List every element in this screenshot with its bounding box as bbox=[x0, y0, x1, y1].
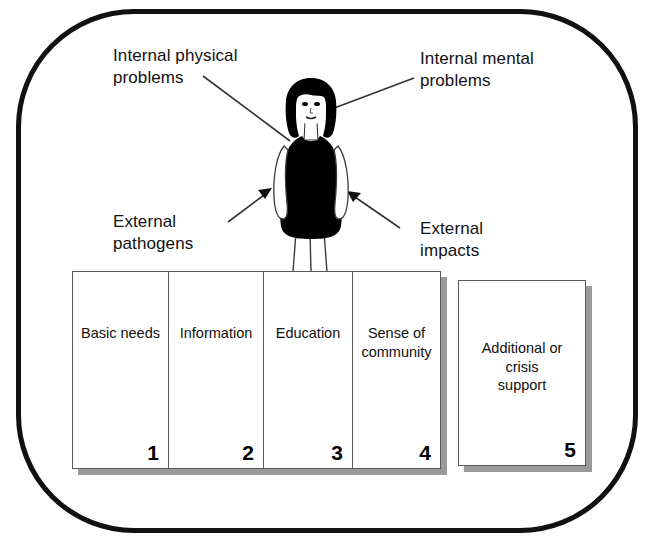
support-card-3-number: 3 bbox=[331, 441, 343, 465]
support-card-group-secondary: Additional or crisis support 5 bbox=[458, 280, 586, 466]
right-arm-icon bbox=[334, 146, 348, 219]
left-eye-icon bbox=[302, 102, 308, 106]
diagram-canvas: Internal physical problems Internal ment… bbox=[0, 0, 654, 549]
label-internal-physical-problems: Internal physical problems bbox=[113, 45, 238, 90]
support-card-5-number: 5 bbox=[564, 438, 576, 462]
connector-internal-mental bbox=[329, 78, 414, 110]
right-eye-icon bbox=[314, 102, 320, 106]
connector-external-impacts bbox=[347, 191, 400, 228]
dress-shape bbox=[280, 136, 342, 239]
left-arm-icon bbox=[274, 146, 288, 219]
support-card-5-label: Additional or crisis support bbox=[459, 339, 585, 395]
connector-external-pathogens bbox=[228, 188, 272, 222]
support-card-1-number: 1 bbox=[147, 441, 159, 465]
support-card-1-label: Basic needs bbox=[73, 324, 168, 343]
label-internal-mental-problems: Internal mental problems bbox=[420, 48, 534, 93]
support-card-4[interactable]: Sense of community 4 bbox=[352, 271, 441, 469]
label-external-pathogens: External pathogens bbox=[113, 211, 193, 256]
support-card-4-number: 4 bbox=[419, 441, 431, 465]
label-external-impacts: External impacts bbox=[420, 218, 483, 263]
support-card-2-number: 2 bbox=[242, 441, 254, 465]
support-card-5[interactable]: Additional or crisis support 5 bbox=[458, 280, 586, 466]
support-card-4-label: Sense of community bbox=[353, 324, 440, 361]
support-card-1[interactable]: Basic needs 1 bbox=[72, 271, 169, 469]
support-card-3[interactable]: Education 3 bbox=[263, 271, 353, 469]
support-card-2-label: Information bbox=[169, 324, 263, 343]
support-card-2[interactable]: Information 2 bbox=[168, 271, 264, 469]
support-card-group-primary: Basic needs 1 Information 2 Education 3 … bbox=[72, 271, 441, 469]
support-card-3-label: Education bbox=[264, 324, 352, 343]
